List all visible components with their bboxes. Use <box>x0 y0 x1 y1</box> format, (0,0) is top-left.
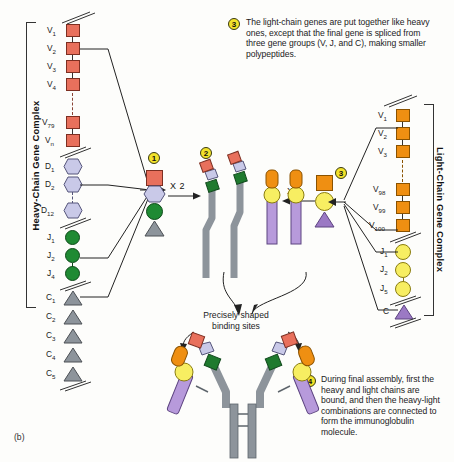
heavy-d1-label: D1 <box>45 161 55 173</box>
heavy-c2-gene <box>64 310 82 324</box>
heavy-d2-label: D2 <box>45 179 55 191</box>
heavy-vn-label: Vn <box>45 135 54 147</box>
heavy-c4-gene <box>64 348 82 362</box>
light-complex-bracket <box>424 104 434 316</box>
heavy-v2-gene <box>66 42 80 55</box>
heavy-c3-gene <box>64 329 82 343</box>
heavy-v3-label: V3 <box>47 61 56 73</box>
heavy-v79-label: V79 <box>42 117 54 129</box>
step-3-text: The light-chain genes are put together l… <box>246 17 442 59</box>
assembled-light-c <box>315 212 334 227</box>
heavy-j2-label: J2 <box>47 250 55 262</box>
figure-canvas: 3 The light-chain genes are put together… <box>0 0 454 462</box>
assembled-heavy-j <box>146 203 163 220</box>
heavy-v4-label: V4 <box>47 79 56 91</box>
step-1-badge: 1 <box>148 152 160 164</box>
step-4-text: During final assembly, first the heavy a… <box>321 374 447 438</box>
heavy-v-ellipsis <box>72 93 73 115</box>
light-splice-lines <box>336 120 400 320</box>
immunoglobulin-molecule <box>168 334 318 460</box>
step-2-badge: 2 <box>200 147 212 159</box>
heavy-c1-label: C1 <box>46 292 56 304</box>
assembled-heavy-v <box>146 170 163 186</box>
heavy-j4-label: J4 <box>47 268 55 280</box>
heavy-v2-label: V2 <box>47 43 56 55</box>
step-3-badge-top: 3 <box>228 18 240 30</box>
heavy-v4-gene <box>66 78 80 91</box>
heavy-c2-label: C2 <box>46 311 56 323</box>
heavy-v1-label: V1 <box>47 25 56 37</box>
heavy-j1-label: J1 <box>47 232 55 244</box>
light-break-start <box>382 95 420 107</box>
light-v-ellipsis <box>402 160 403 182</box>
heavy-vn-gene <box>66 134 80 147</box>
assembled-heavy-d <box>144 186 165 202</box>
heavy-j4-gene <box>65 266 80 281</box>
heavy-v79-gene <box>66 116 80 129</box>
light-complex-title: Light-Chain Gene Complex <box>435 125 446 295</box>
heavy-c4-label: C4 <box>46 349 56 361</box>
heavy-break-start <box>60 12 98 24</box>
light-chain-b <box>282 168 312 246</box>
heavy-v1-gene <box>66 24 80 37</box>
assembled-light-v <box>316 175 333 191</box>
heavy-c5-label: C5 <box>46 368 56 380</box>
heavy-j2-gene <box>65 248 80 263</box>
heavy-j1-gene <box>65 230 80 245</box>
heavy-c5-gene <box>64 367 82 381</box>
heavy-d12-label: D12 <box>41 205 54 217</box>
heavy-complex-title: Heavy-Chain Gene Complex <box>30 81 41 251</box>
heavy-x2-label: X 2 <box>170 181 185 191</box>
figure-label: (b) <box>14 432 25 442</box>
assembled-heavy-c <box>145 221 164 236</box>
heavy-c3-label: C3 <box>46 330 56 342</box>
heavy-v3-gene <box>66 60 80 73</box>
heavy-break-end <box>58 381 94 392</box>
